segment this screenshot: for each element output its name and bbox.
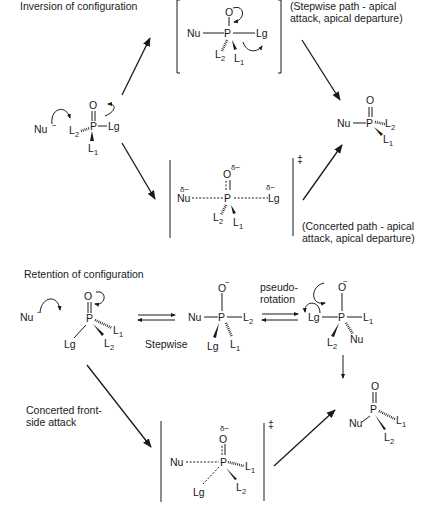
svg-text:O: O xyxy=(366,94,374,106)
frontside-transition-state: ‡ Nu P O δ− L 1 L 2 Lg xyxy=(161,418,274,502)
svg-text:P: P xyxy=(220,456,227,468)
curved-arrow-icon xyxy=(243,42,262,51)
svg-text:2: 2 xyxy=(249,317,253,326)
svg-text:δ−: δ− xyxy=(231,163,240,172)
svg-text:attack, apical departure): attack, apical departure) xyxy=(290,12,403,24)
svg-text:Concerted front-: Concerted front- xyxy=(26,404,102,416)
inversion-product: Nu P O L 2 L 1 xyxy=(337,94,395,148)
svg-text:1: 1 xyxy=(94,148,98,157)
svg-text:Nu: Nu xyxy=(20,311,34,323)
retention-reactant: Nu − P O L 1 L 2 Lg xyxy=(20,290,123,352)
arrow-to-stepwise xyxy=(122,38,150,95)
svg-text:2: 2 xyxy=(391,123,395,132)
svg-text:attack, apical departure): attack, apical departure) xyxy=(302,232,415,244)
curved-arrow-icon xyxy=(95,292,104,304)
retention-title: Retention of configuration xyxy=(24,268,144,280)
svg-text:(Stepwise path - apical: (Stepwise path - apical xyxy=(290,0,396,12)
svg-text:P: P xyxy=(370,403,377,415)
svg-text:2: 2 xyxy=(110,343,114,352)
svg-text:Lg: Lg xyxy=(268,192,280,204)
phosphoryl-transfer-diagram: Inversion of configuration Nu − L 2 P O … xyxy=(0,0,429,527)
svg-text:1: 1 xyxy=(402,420,406,429)
svg-text:(Concerted path - apical: (Concerted path - apical xyxy=(302,220,414,232)
svg-text:Lg: Lg xyxy=(256,27,268,39)
svg-text:−: − xyxy=(343,277,348,286)
svg-text:Lg: Lg xyxy=(207,340,219,352)
svg-text:Nu: Nu xyxy=(188,311,202,323)
svg-text:−: − xyxy=(225,278,230,287)
svg-text:1: 1 xyxy=(239,222,243,231)
svg-text:P: P xyxy=(224,27,231,39)
svg-text:1: 1 xyxy=(251,466,255,475)
retention-intermediate-2: Lg P O − L 1 L 2 Nu xyxy=(305,277,373,351)
svg-text:O: O xyxy=(371,380,379,392)
stepwise-intermediate: Nu P O Lg L 2 L 1 xyxy=(177,0,281,73)
svg-text:Nu: Nu xyxy=(170,456,184,468)
svg-text:Nu: Nu xyxy=(350,333,364,345)
curved-arrow-icon xyxy=(314,283,325,303)
svg-text:‡: ‡ xyxy=(297,153,303,165)
retention-product: O P L 1 L 2 Nu xyxy=(349,380,406,446)
svg-text:Stepwise: Stepwise xyxy=(145,338,188,350)
svg-text:‡: ‡ xyxy=(268,418,274,430)
svg-text:Nu: Nu xyxy=(349,417,363,429)
svg-text:Lg: Lg xyxy=(193,486,205,498)
svg-text:O: O xyxy=(89,99,97,111)
arrow-frontside-to-product xyxy=(274,410,335,466)
svg-text:O: O xyxy=(219,433,227,445)
svg-text:2: 2 xyxy=(333,342,337,351)
svg-text:−: − xyxy=(37,308,42,317)
svg-text:1: 1 xyxy=(119,330,123,339)
svg-text:rotation: rotation xyxy=(260,293,295,305)
arrow-to-product xyxy=(302,40,340,100)
svg-text:Lg: Lg xyxy=(308,311,320,323)
phosphorus: P xyxy=(90,120,97,132)
svg-text:P: P xyxy=(338,311,345,323)
arrow-concerted-to-product xyxy=(303,145,342,200)
svg-text:pseudo-: pseudo- xyxy=(260,281,298,293)
svg-text:2: 2 xyxy=(242,487,246,496)
svg-text:1: 1 xyxy=(369,317,373,326)
nu-label: Nu xyxy=(34,123,48,135)
svg-text:O: O xyxy=(225,6,233,18)
inversion-title: Inversion of configuration xyxy=(20,0,137,12)
inversion-reactant: Nu − L 2 P O Lg L 1 xyxy=(34,99,120,157)
svg-text:2: 2 xyxy=(219,217,223,226)
curved-arrow-icon xyxy=(40,299,60,312)
svg-text:P: P xyxy=(366,117,373,129)
retention-intermediate-1: Nu P O − L 2 Lg L 1 xyxy=(188,278,253,353)
svg-text:O: O xyxy=(84,290,92,302)
svg-text:1: 1 xyxy=(236,344,240,353)
svg-text:δ−: δ− xyxy=(220,424,229,433)
svg-text:Lg: Lg xyxy=(64,338,76,350)
svg-text:Nu: Nu xyxy=(337,117,351,129)
svg-text:side attack: side attack xyxy=(26,416,77,428)
concerted-transition-state: ‡ δ− Nu P O δ− δ− Lg L 2 L 1 xyxy=(170,153,303,238)
svg-text:1: 1 xyxy=(389,139,393,148)
svg-text:δ−: δ− xyxy=(266,183,275,192)
svg-text:Lg: Lg xyxy=(108,120,120,132)
svg-text:Nu: Nu xyxy=(187,27,201,39)
svg-text:2: 2 xyxy=(221,54,225,63)
svg-text:2: 2 xyxy=(390,437,394,446)
arrow-to-concerted xyxy=(122,143,155,199)
nu-charge: − xyxy=(52,121,57,130)
curved-arrow-icon xyxy=(105,104,114,116)
svg-text:2: 2 xyxy=(75,130,79,139)
svg-text:Nu: Nu xyxy=(177,192,191,204)
curved-arrow-icon xyxy=(233,7,243,22)
svg-text:P: P xyxy=(224,192,231,204)
svg-text:P: P xyxy=(86,312,93,324)
svg-text:P: P xyxy=(218,311,225,323)
svg-text:O: O xyxy=(223,168,231,180)
svg-text:1: 1 xyxy=(240,58,244,67)
